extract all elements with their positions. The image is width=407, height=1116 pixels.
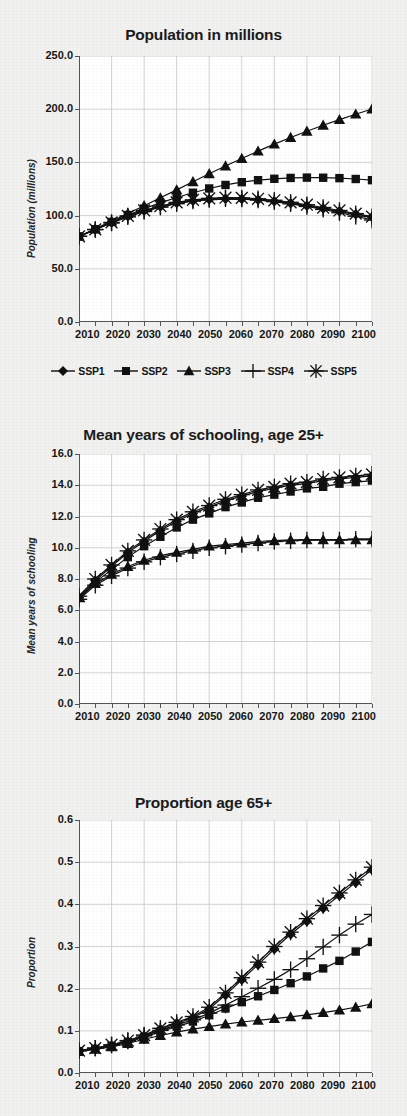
x-tick-population-7: 2080	[287, 328, 318, 340]
y-tick-proportion-5: 0.5	[58, 855, 73, 867]
y-tick-population-3: 150.0	[45, 155, 73, 167]
x-tick-mark	[258, 322, 259, 326]
plot-area-schooling	[79, 454, 372, 704]
y-tick-mark	[75, 579, 79, 580]
legend-item-ssp2[interactable]: SSP2	[113, 364, 167, 378]
x-tick-mark	[160, 1073, 161, 1077]
x-tick-mark	[291, 322, 292, 326]
x-tick-population-8: 2090	[318, 328, 349, 340]
x-tick-mark	[177, 704, 178, 708]
x-tick-schooling-3: 2040	[164, 710, 195, 722]
x-tick-proportion-6: 2070	[256, 1079, 287, 1091]
x-tick-mark	[209, 322, 210, 326]
y-tick-population-1: 50.0	[52, 262, 73, 274]
plot-area-proportion	[79, 820, 372, 1073]
y-tick-mark	[75, 517, 79, 518]
x-tick-schooling-6: 2070	[256, 710, 287, 722]
plus-marker-icon	[240, 364, 266, 378]
x-tick-schooling-9: 2100	[348, 710, 379, 722]
x-tick-proportion-3: 2040	[164, 1079, 195, 1091]
x-tick-mark	[128, 1073, 129, 1077]
plot-area-population	[79, 56, 372, 322]
y-tick-mark	[75, 904, 79, 905]
y-tick-schooling-6: 12.0	[52, 510, 73, 522]
legend-item-ssp3[interactable]: SSP3	[176, 364, 230, 378]
ssp-projection-figure: Population in millions Population (milli…	[0, 0, 407, 1116]
y-tick-population-5: 250.0	[45, 49, 73, 61]
asterisk-marker-icon	[303, 364, 329, 378]
x-tick-schooling-8: 2090	[318, 710, 349, 722]
x-tick-mark	[356, 1073, 357, 1077]
x-tick-mark	[323, 704, 324, 708]
x-tick-proportion-8: 2090	[318, 1079, 349, 1091]
y-tick-proportion-1: 0.1	[58, 1024, 73, 1036]
y-tick-proportion-6: 0.6	[58, 813, 73, 825]
legend-label-ssp3: SSP3	[204, 365, 230, 377]
x-tick-mark	[339, 322, 340, 326]
y-tick-schooling-5: 10.0	[52, 541, 73, 553]
y-tick-proportion-0: 0.0	[58, 1066, 73, 1078]
x-tick-schooling-5: 2060	[226, 710, 257, 722]
triangle-marker-icon	[176, 364, 202, 378]
x-tick-mark	[209, 1073, 210, 1077]
x-tick-mark	[307, 1073, 308, 1077]
x-tick-mark	[144, 704, 145, 708]
x-tick-proportion-1: 2020	[103, 1079, 134, 1091]
y-tick-population-2: 100.0	[45, 209, 73, 221]
legend-item-ssp4[interactable]: SSP4	[240, 364, 294, 378]
diamond-marker-icon	[50, 364, 76, 378]
y-tick-mark	[75, 485, 79, 486]
chart-panel-population: Population in millions Population (milli…	[0, 0, 407, 380]
x-tick-proportion-9: 2100	[348, 1079, 379, 1091]
x-tick-mark	[291, 704, 292, 708]
legend-item-ssp1[interactable]: SSP1	[50, 364, 104, 378]
x-tick-schooling-1: 2020	[103, 710, 134, 722]
x-tick-mark	[356, 704, 357, 708]
x-tick-mark	[339, 704, 340, 708]
x-axis-ticks-proportion: 2010202020302040205020602070208020902100	[72, 1079, 379, 1091]
y-tick-mark	[75, 109, 79, 110]
x-tick-mark	[193, 322, 194, 326]
x-tick-mark	[274, 1073, 275, 1077]
x-tick-mark	[79, 704, 80, 708]
y-tick-schooling-7: 14.0	[52, 478, 73, 490]
x-tick-schooling-0: 2010	[72, 710, 103, 722]
x-tick-mark	[95, 1073, 96, 1077]
x-tick-mark	[144, 1073, 145, 1077]
legend: SSP1SSP2SSP3SSP4SSP5	[0, 360, 407, 382]
x-tick-mark	[323, 322, 324, 326]
legend-label-ssp1: SSP1	[78, 365, 104, 377]
x-tick-mark	[307, 704, 308, 708]
x-tick-mark	[209, 704, 210, 708]
x-tick-mark	[274, 322, 275, 326]
legend-label-ssp2: SSP2	[141, 365, 167, 377]
x-tick-mark	[372, 704, 373, 708]
x-tick-mark	[193, 1073, 194, 1077]
y-tick-mark	[75, 269, 79, 270]
x-tick-mark	[226, 1073, 227, 1077]
x-tick-mark	[95, 322, 96, 326]
x-tick-mark	[323, 1073, 324, 1077]
x-tick-schooling-2: 2030	[133, 710, 164, 722]
x-tick-mark	[226, 322, 227, 326]
y-tick-proportion-3: 0.3	[58, 940, 73, 952]
x-tick-mark	[79, 322, 80, 326]
x-tick-mark	[128, 322, 129, 326]
x-tick-schooling-4: 2050	[195, 710, 226, 722]
y-tick-schooling-4: 8.0	[58, 572, 73, 584]
x-tick-population-2: 2030	[133, 328, 164, 340]
x-tick-proportion-0: 2010	[72, 1079, 103, 1091]
y-tick-population-4: 200.0	[45, 102, 73, 114]
legend-item-ssp5[interactable]: SSP5	[303, 364, 357, 378]
x-tick-mark	[258, 1073, 259, 1077]
y-tick-mark	[75, 673, 79, 674]
y-tick-mark	[75, 820, 79, 821]
x-tick-mark	[177, 1073, 178, 1077]
x-tick-mark	[226, 704, 227, 708]
y-tick-mark	[75, 548, 79, 549]
x-tick-population-4: 2050	[195, 328, 226, 340]
y-tick-population-0: 0.0	[58, 315, 73, 327]
y-axis-label-proportion: Proportion	[26, 937, 37, 988]
x-tick-mark	[242, 704, 243, 708]
y-tick-mark	[75, 610, 79, 611]
